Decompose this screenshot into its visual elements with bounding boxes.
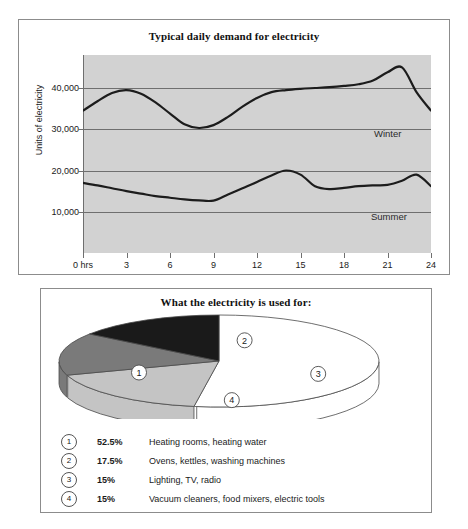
curve-summer (83, 170, 431, 201)
x-tick-label: 18 (339, 260, 349, 270)
x-tick-label: 24 (426, 260, 436, 270)
pie-slice-number-1: 1 (136, 368, 141, 378)
curve-winter (83, 66, 431, 128)
legend-number-badge: 3 (61, 472, 77, 488)
legend-number-badge: 1 (61, 434, 77, 450)
x-axis: 0 hrs3691215182124 (83, 253, 431, 281)
x-tick-label: 3 (124, 260, 129, 270)
legend-description: Vacuum cleaners, food mixers, electric t… (149, 494, 324, 504)
x-tick (388, 253, 389, 258)
y-axis-labels: 40,00030,00020,00010,000 (19, 55, 79, 253)
line-chart-title: Typical daily demand for electricity (19, 30, 449, 42)
x-tick (301, 253, 302, 258)
x-tick-label: 21 (382, 260, 392, 270)
y-tick-label: 10,000 (51, 207, 79, 217)
screenshot-root: Typical daily demand for electricity Uni… (0, 0, 468, 529)
y-tick-label: 40,000 (51, 83, 79, 93)
legend-percent: 52.5% (97, 437, 149, 447)
x-tick-label: 6 (167, 260, 172, 270)
pie-legend: 152.5%Heating rooms, heating water217.5%… (61, 432, 421, 508)
pie-slice-number-2: 2 (242, 336, 247, 346)
pie-chart-title: What the electricity is used for: (41, 296, 431, 308)
y-tick-label: 30,000 (51, 124, 79, 134)
series-label-summer: Summer (371, 211, 407, 222)
x-tick-label: 12 (252, 260, 262, 270)
x-tick (170, 253, 171, 258)
x-tick (127, 253, 128, 258)
x-tick (257, 253, 258, 258)
x-tick-label: 0 hrs (73, 260, 93, 270)
x-tick (344, 253, 345, 258)
x-tick-label: 15 (295, 260, 305, 270)
legend-number-badge: 4 (61, 491, 77, 507)
y-tick-label: 20,000 (51, 166, 79, 176)
legend-row: 415%Vacuum cleaners, food mixers, electr… (61, 489, 421, 508)
pie-svg: 1234 (49, 311, 425, 419)
legend-percent: 17.5% (97, 456, 149, 466)
demand-curves (83, 55, 431, 253)
x-tick (214, 253, 215, 258)
x-tick (431, 253, 432, 258)
pie-chart-graphic: 1234 (49, 311, 425, 419)
legend-description: Ovens, kettles, washing machines (149, 456, 285, 466)
x-tick (83, 253, 84, 258)
series-label-winter: Winter (374, 128, 401, 139)
pie-slice-number-4: 4 (229, 395, 234, 405)
legend-row: 315%Lighting, TV, radio (61, 470, 421, 489)
legend-number-badge: 2 (61, 453, 77, 469)
legend-percent: 15% (97, 475, 149, 485)
legend-row: 217.5%Ovens, kettles, washing machines (61, 451, 421, 470)
line-chart-panel: Typical daily demand for electricity Uni… (18, 19, 450, 275)
legend-description: Lighting, TV, radio (149, 475, 221, 485)
legend-percent: 15% (97, 494, 149, 504)
legend-description: Heating rooms, heating water (149, 437, 267, 447)
legend-row: 152.5%Heating rooms, heating water (61, 432, 421, 451)
pie-chart-panel: What the electricity is used for: 1234 1… (40, 288, 432, 513)
x-tick-label: 9 (211, 260, 216, 270)
pie-slice-number-3: 3 (316, 369, 321, 379)
